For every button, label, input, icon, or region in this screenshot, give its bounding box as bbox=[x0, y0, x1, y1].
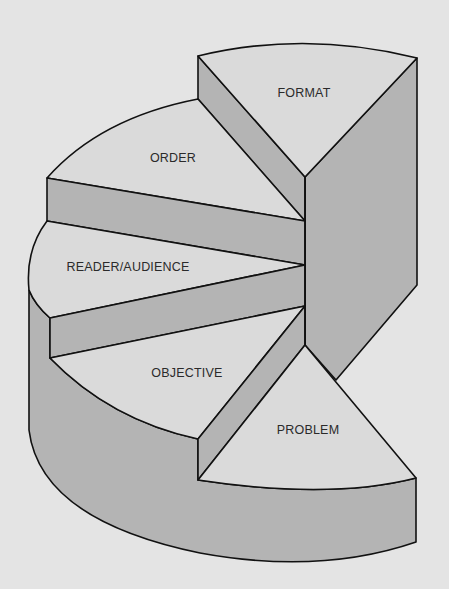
label-reader-audience: READER/AUDIENCE bbox=[66, 260, 189, 274]
staircase-pie-diagram: FORMAT ORDER READER/AUDIENCE OBJECTIVE P… bbox=[0, 0, 449, 589]
label-problem: PROBLEM bbox=[277, 423, 340, 437]
label-objective: OBJECTIVE bbox=[151, 366, 222, 380]
label-format: FORMAT bbox=[277, 86, 330, 100]
label-order: ORDER bbox=[150, 151, 196, 165]
